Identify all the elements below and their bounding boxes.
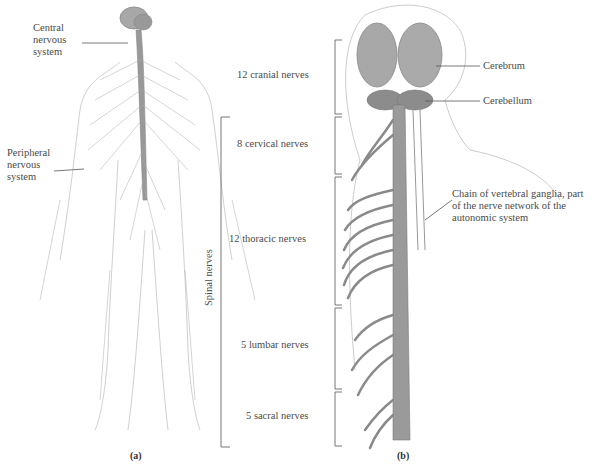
ganglia-label-line3: autonomic system [452, 212, 584, 224]
ganglia-label-line1: Chain of vertebral ganglia, part [452, 188, 584, 200]
cerebrum-label: Cerebrum [483, 60, 525, 72]
cns-label-line2: nervous [33, 34, 66, 46]
caption-a: (a) [130, 450, 142, 461]
spinal-nerves-label: Spinal nerves [203, 249, 214, 306]
cerebellum-label: Cerebellum [483, 95, 532, 107]
brain-b [357, 23, 442, 110]
spinal-cord-a [136, 30, 147, 200]
pns-label-line1: Peripheral [7, 147, 50, 159]
cns-label-line3: system [33, 46, 66, 58]
pns-label-line3: system [7, 171, 50, 183]
cns-label-line1: Central [33, 22, 66, 34]
ganglia-label: Chain of vertebral ganglia, part of the … [452, 188, 584, 224]
brain-a [120, 7, 152, 30]
vertebral-ganglia-chain [413, 110, 425, 250]
spinal-cord-b [393, 105, 410, 440]
ganglia-label-line2: of the nerve network of the [452, 200, 584, 212]
sacral-nerves-label: 5 sacral nerves [246, 410, 308, 422]
body-figure-a [60, 62, 232, 430]
nerve-branches-a [40, 60, 255, 400]
caption-b: (b) [397, 450, 409, 461]
lumbar-nerves-label: 5 lumbar nerves [241, 339, 309, 351]
pns-label: Peripheral nervous system [7, 147, 50, 183]
spinal-nerves-b [343, 120, 393, 448]
cranial-nerves-label: 12 cranial nerves [237, 69, 309, 81]
cervical-nerves-label: 8 cervical nerves [237, 138, 308, 150]
thoracic-nerves-label: 12 thoracic nerves [229, 233, 306, 245]
cns-label: Central nervous system [33, 22, 66, 58]
pns-label-line2: nervous [7, 159, 50, 171]
